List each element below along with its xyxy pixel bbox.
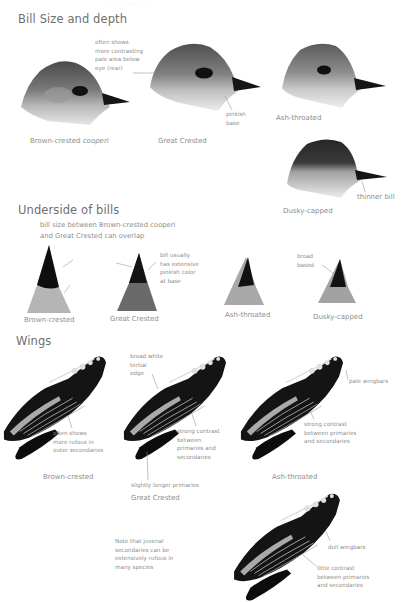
leader-line [0,0,413,591]
